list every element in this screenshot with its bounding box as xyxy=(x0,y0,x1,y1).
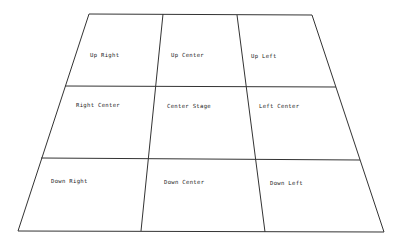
stage-outline xyxy=(18,14,384,232)
divider-horizontal-lower xyxy=(41,158,360,160)
area-label-left-center: Left Center xyxy=(259,103,300,109)
area-label-down-right: Down Right xyxy=(51,178,88,185)
area-label-down-center: Down Center xyxy=(164,179,205,185)
area-label-down-left: Down Left xyxy=(270,180,303,186)
area-label-up-left: Up Left xyxy=(251,53,277,60)
stage-diagram: Up Right Up Center Up Left Right Center … xyxy=(0,0,400,246)
area-label-up-right: Up Right xyxy=(90,52,119,59)
divider-horizontal-upper xyxy=(65,86,336,87)
area-label-center-stage: Center Stage xyxy=(167,103,211,110)
stage-grid-svg: Up Right Up Center Up Left Right Center … xyxy=(0,0,400,246)
area-label-up-center: Up Center xyxy=(171,52,204,59)
area-label-right-center: Right Center xyxy=(76,102,120,109)
divider-vertical-right xyxy=(141,14,163,231)
divider-vertical-left xyxy=(237,15,265,232)
